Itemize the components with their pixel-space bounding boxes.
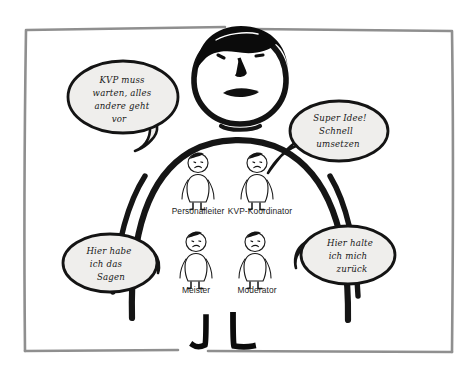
figure-kvp-koordinator: KVP-Koordinator	[228, 153, 292, 217]
speech-bubble-top-right: Super Idee! Schnell umsetzen	[268, 101, 388, 173]
figure-meister: Meister	[180, 232, 212, 296]
speech-bubble-line-4: vor	[112, 114, 127, 124]
speech-bubble-line-1: Hier habe	[85, 246, 131, 256]
figure-label-personalleiter: Personalleiter	[172, 206, 225, 216]
speech-bubble-line-2: warten, alles	[93, 88, 152, 98]
small-figure-body	[246, 175, 268, 203]
small-figure-body	[185, 254, 207, 282]
speech-bubble-line-3: andere geht	[95, 101, 150, 111]
big-figure-left-foot	[193, 317, 206, 347]
speech-bubble-line-3: Sagen	[97, 272, 125, 282]
illustration-canvas: Personalleiter KVP-Koordinator	[0, 0, 476, 374]
figure-label-kvp-koordinator: KVP-Koordinator	[228, 206, 292, 216]
speech-bubble-line-3: umsetzen	[316, 139, 359, 149]
speech-bubble-top-left: KVP muss warten, alles andere geht vor	[68, 61, 178, 151]
speech-bubble-line-1: KVP muss	[98, 75, 145, 85]
hand-drawn-illustration: Personalleiter KVP-Koordinator	[0, 0, 476, 374]
figure-label-meister: Meister	[182, 285, 210, 295]
figure-label-moderator: Moderator	[237, 285, 276, 295]
speech-bubble-line-2: ich das	[90, 259, 123, 269]
big-figure-right-eye	[256, 55, 263, 56]
speech-bubble-line-1: Hier halte	[326, 238, 373, 248]
speech-bubble-line-3: zurück	[336, 264, 368, 274]
speech-bubble-line-1: Super Idee!	[313, 113, 367, 123]
speech-bubble-bottom-left: Hier habe ich das Sagen	[63, 234, 159, 292]
speech-bubble-line-2: ich mich	[329, 251, 368, 261]
small-figure-body	[244, 254, 266, 282]
speech-bubble-line-2: Schnell	[319, 126, 353, 136]
figure-moderator: Moderator	[237, 232, 276, 296]
small-figure-body	[187, 175, 209, 203]
speech-bubble-bottom-right: Hier halte ich mich zurück	[295, 226, 395, 284]
big-figure-right-foot	[233, 315, 253, 347]
